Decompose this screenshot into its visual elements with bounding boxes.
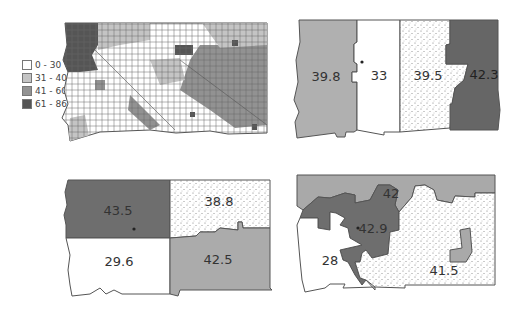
city-marker-icon	[132, 227, 135, 230]
district-label: 39.8	[312, 69, 341, 84]
plan-irregular-map: 42 42.9 28 41.5	[297, 175, 495, 292]
district-label: 41.5	[430, 263, 459, 278]
district-label: 38.8	[205, 194, 234, 209]
district-label: 29.6	[105, 254, 134, 269]
district-label: 28	[322, 253, 339, 268]
district-label: 42.9	[359, 221, 388, 236]
city-marker-icon	[360, 60, 363, 63]
plan-quadrants-map: 43.5 38.8 29.6 42.5	[64, 180, 272, 296]
district-label: 43.5	[104, 203, 133, 218]
district-label: 42	[383, 186, 400, 201]
plan-vertical-map: 39.8 33 39.5 42.3	[294, 20, 500, 138]
district-label: 39.5	[414, 68, 443, 83]
choropleth-map	[60, 20, 270, 145]
map-figure: 39.8 33 39.5 42.3 43.5 38.8 29.6 42.5 42…	[0, 0, 523, 312]
district-label: 33	[371, 68, 388, 83]
district-label: 42.5	[204, 252, 233, 267]
district-label: 42.3	[470, 67, 499, 82]
